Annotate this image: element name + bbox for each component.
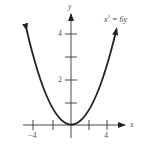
y-tick-label-2: 2 — [58, 76, 62, 84]
curve-equation-label: x2 = 6y — [104, 14, 127, 24]
y-axis-label: y — [68, 3, 72, 11]
parabola-plot — [0, 0, 159, 152]
x-tick-label-neg4: −4 — [28, 132, 37, 140]
parabola-curve — [27, 29, 117, 124]
x-axis-label: x — [130, 121, 134, 129]
y-tick-label-4: 4 — [58, 30, 62, 38]
x-tick-label-4: 4 — [104, 132, 108, 140]
